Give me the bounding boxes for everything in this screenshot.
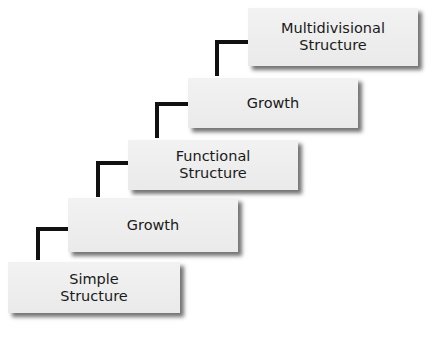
step-functional-structure: Functional Structure <box>128 140 298 190</box>
step-multidivisional-structure: Multidivisional Structure <box>248 8 418 66</box>
step-label: Growth <box>247 95 300 112</box>
step-growth-1: Growth <box>68 198 238 252</box>
arrow-icon <box>217 42 252 76</box>
step-label: Growth <box>127 217 180 234</box>
step-growth-2: Growth <box>188 78 358 128</box>
step-label: Simple Structure <box>60 271 127 305</box>
arrow-icon <box>98 163 132 197</box>
arrow-icon <box>38 229 72 260</box>
step-simple-structure: Simple Structure <box>8 262 180 313</box>
step-label: Functional Structure <box>176 148 251 182</box>
arrow-icon <box>157 104 192 138</box>
step-label: Multidivisional Structure <box>281 20 385 54</box>
